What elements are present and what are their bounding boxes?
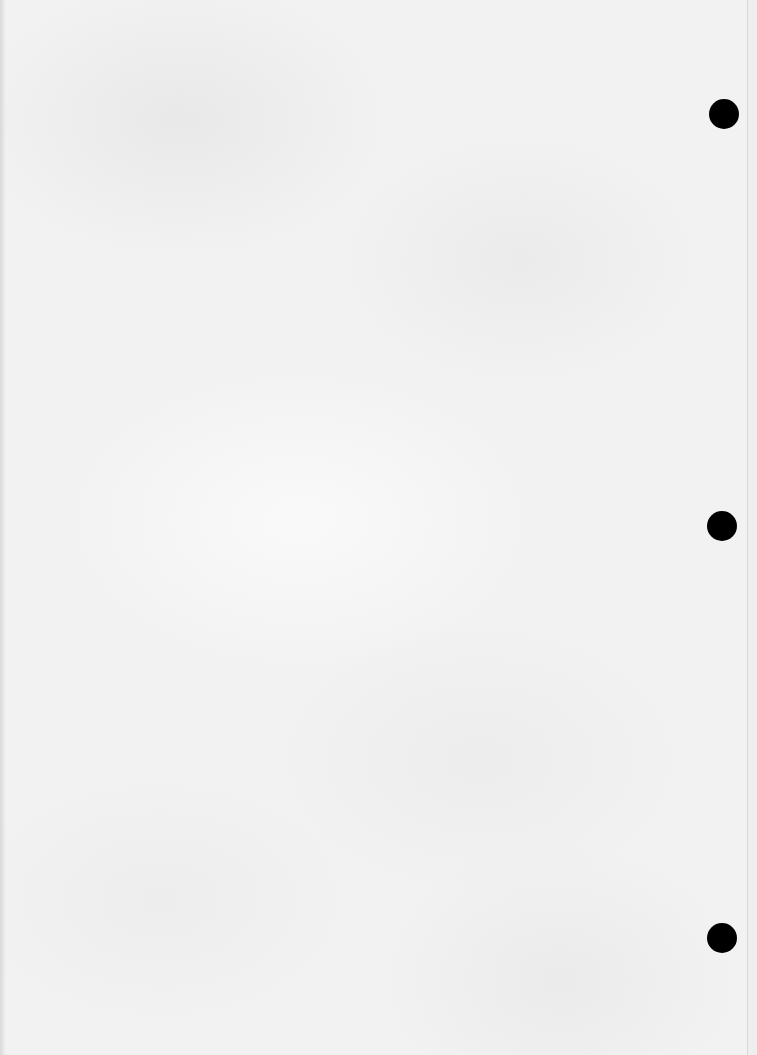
punch-hole-top <box>709 99 739 129</box>
right-edge-strip <box>748 0 757 1055</box>
punch-hole-middle <box>707 511 737 541</box>
punch-hole-bottom <box>707 923 737 953</box>
scan-left-edge-shadow <box>0 0 6 1055</box>
blank-scanned-page <box>0 0 757 1055</box>
